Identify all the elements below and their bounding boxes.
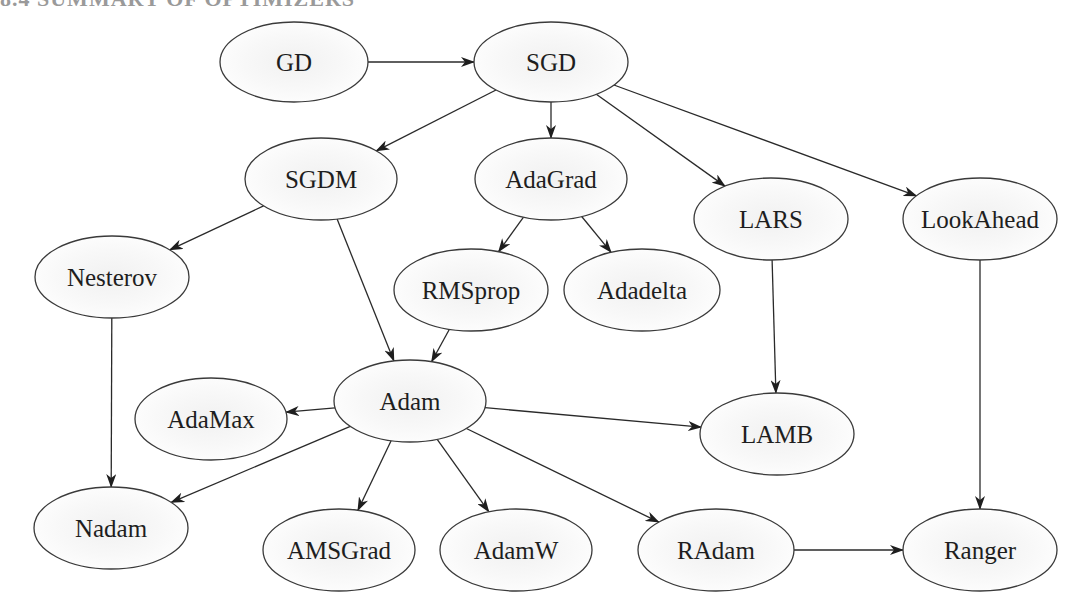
edge-adagrad-to-rmsprop <box>499 217 524 252</box>
edge-adam-to-radam <box>466 429 658 523</box>
node-sgdm: SGDM <box>245 138 397 220</box>
edge-arrow <box>432 329 450 361</box>
node-nadam: Nadam <box>34 487 188 569</box>
edge-arrow <box>499 217 524 252</box>
edge-arrow <box>437 439 489 511</box>
nodes-layer: GDSGDSGDMAdaGradLARSLookAheadNesterovRMS… <box>34 22 1057 591</box>
edge-arrow <box>358 441 391 511</box>
edge-lars-to-lamb <box>772 260 776 393</box>
node-label: Nadam <box>75 515 148 542</box>
edge-adagrad-to-adadelta <box>582 217 611 253</box>
edge-nesterov-to-nadam <box>111 318 112 487</box>
edge-arrow <box>337 219 394 361</box>
node-nesterov: Nesterov <box>35 236 189 318</box>
node-label: RMSprop <box>422 277 521 304</box>
node-adamax: AdaMax <box>135 378 287 460</box>
node-label: AdaGrad <box>505 166 597 193</box>
node-label: GD <box>276 49 312 76</box>
edge-arrow <box>485 408 701 428</box>
node-label: SGD <box>526 49 576 76</box>
node-radam: RAdam <box>638 509 794 591</box>
node-label: Adadelta <box>597 277 687 304</box>
node-lamb: LAMB <box>700 393 854 475</box>
node-ranger: Ranger <box>903 509 1057 591</box>
node-amsgrad: AMSGrad <box>263 509 415 591</box>
node-lars: LARS <box>694 178 848 260</box>
node-label: LookAhead <box>921 206 1040 233</box>
node-label: LARS <box>739 206 803 233</box>
node-label: RAdam <box>677 537 755 564</box>
node-rmsprop: RMSprop <box>394 249 548 331</box>
edge-sgdm-to-adam <box>337 219 394 361</box>
edge-arrow <box>466 429 658 523</box>
node-label: Ranger <box>944 537 1017 564</box>
node-lookahead: LookAhead <box>903 178 1057 260</box>
edge-arrow <box>376 90 496 151</box>
edge-arrow <box>170 206 264 250</box>
edge-sgdm-to-nesterov <box>170 206 264 250</box>
node-adam: Adam <box>334 360 486 442</box>
edges-layer <box>111 62 980 550</box>
edge-arrow <box>772 260 776 393</box>
optimizer-family-diagram: GDSGDSGDMAdaGradLARSLookAheadNesterovRMS… <box>0 0 1083 608</box>
node-label: Nesterov <box>67 264 158 291</box>
node-label: AdaMax <box>167 406 255 433</box>
edge-rmsprop-to-adam <box>432 329 450 361</box>
edge-arrow <box>582 217 611 253</box>
node-gd: GD <box>220 22 368 102</box>
node-label: SGDM <box>285 166 357 193</box>
node-adadelta: Adadelta <box>564 249 720 331</box>
node-label: AdamW <box>474 537 559 564</box>
node-label: LAMB <box>741 421 813 448</box>
edge-arrow <box>286 408 335 412</box>
edge-adam-to-adamax <box>286 408 335 412</box>
node-adagrad: AdaGrad <box>475 138 627 220</box>
edge-sgd-to-sgdm <box>376 90 496 151</box>
edge-arrow <box>111 318 112 487</box>
node-adamw: AdamW <box>440 509 592 591</box>
edge-adam-to-adamw <box>437 439 489 511</box>
node-label: Adam <box>379 388 441 415</box>
edge-adam-to-lamb <box>485 408 701 428</box>
edge-adam-to-amsgrad <box>358 441 391 511</box>
node-label: AMSGrad <box>287 537 392 564</box>
node-sgd: SGD <box>474 22 628 102</box>
